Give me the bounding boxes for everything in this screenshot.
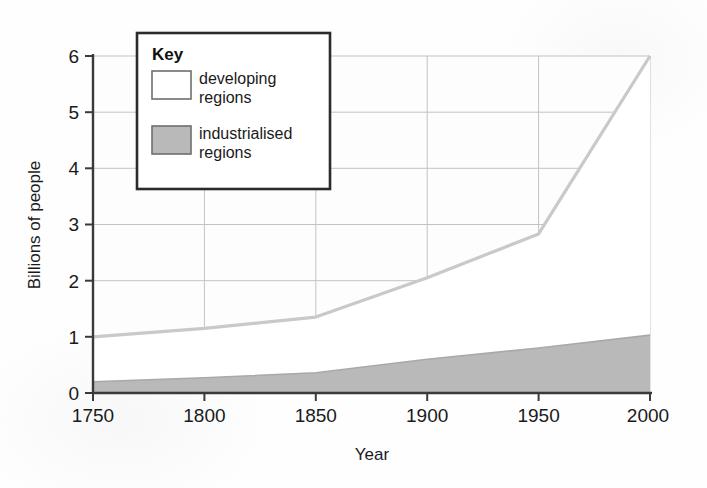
chart-svg: 0 1 2 3 4 5 6 1750 1800 1850 1900 1950 2… [0, 0, 707, 488]
legend-label-developing-regions-line2: regions [199, 89, 251, 106]
legend-swatch-industrialised-regions [152, 126, 191, 154]
x-tick-label-1800: 1800 [183, 405, 225, 426]
y-tick-label-3: 3 [68, 214, 79, 235]
y-tick-label-0: 0 [68, 383, 79, 404]
y-tick-label-4: 4 [68, 158, 79, 179]
x-tick-label-1900: 1900 [406, 405, 448, 426]
x-tick-label-1950: 1950 [517, 405, 559, 426]
population-area-chart: 0 1 2 3 4 5 6 1750 1800 1850 1900 1950 2… [0, 0, 707, 488]
y-tick-label-5: 5 [68, 102, 79, 123]
y-tick-label-2: 2 [68, 271, 79, 292]
y-tick-label-6: 6 [68, 46, 79, 67]
legend-swatch-developing-regions [152, 71, 191, 99]
legend-title: Key [152, 45, 184, 64]
x-tick-label-1750: 1750 [72, 405, 114, 426]
x-axis-title: Year [355, 445, 390, 464]
x-tick-label-2000: 2000 [627, 405, 669, 426]
x-tick-label-1850: 1850 [295, 405, 337, 426]
legend-label-developing-regions-line1: developing [199, 70, 276, 87]
legend-label-industrialised-regions-line2: regions [199, 144, 251, 161]
legend[interactable]: Key developing regions industrialised re… [137, 33, 330, 189]
legend-label-industrialised-regions-line1: industrialised [199, 125, 292, 142]
y-tick-label-1: 1 [68, 327, 79, 348]
x-axis-ticks [93, 393, 650, 401]
y-axis-title: Billions of people [25, 161, 44, 290]
